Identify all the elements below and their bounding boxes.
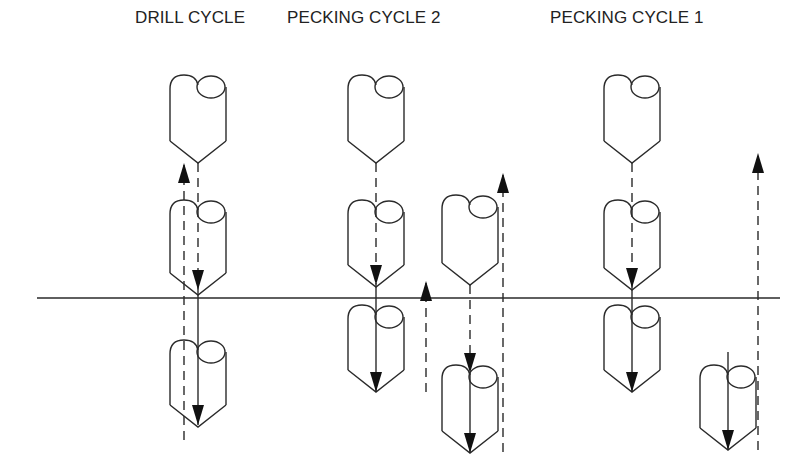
- feed-arrow: [722, 352, 734, 450]
- feed-arrow: [192, 290, 204, 425]
- feed-arrow: [370, 163, 382, 285]
- arrow-down-icon: [192, 405, 204, 425]
- drill-bits: [170, 75, 756, 453]
- drill-bit-icon: [348, 75, 404, 163]
- arrow-up-icon: [497, 173, 509, 193]
- feed-arrow: [626, 163, 638, 288]
- arrow-up-icon: [752, 153, 764, 173]
- arrow-up-icon: [178, 163, 190, 183]
- retract-arrow: [178, 163, 190, 440]
- tool-paths: [178, 153, 764, 453]
- drill-bit-icon: [442, 195, 498, 285]
- feed-arrow: [626, 288, 638, 392]
- retract-arrow: [752, 153, 764, 450]
- arrow-down-icon: [464, 353, 476, 373]
- drill-bit-icon: [170, 75, 226, 163]
- feed-arrow: [370, 285, 382, 392]
- arrow-up-icon: [420, 281, 432, 301]
- retract-arrow: [497, 173, 509, 452]
- arrow-down-icon: [370, 265, 382, 285]
- retract-arrow: [420, 281, 432, 392]
- drilling-cycle-diagram: [0, 0, 808, 470]
- drill-bit-icon: [604, 75, 660, 163]
- feed-arrow: [192, 163, 204, 290]
- arrow-down-icon: [192, 270, 204, 290]
- arrow-down-icon: [626, 268, 638, 288]
